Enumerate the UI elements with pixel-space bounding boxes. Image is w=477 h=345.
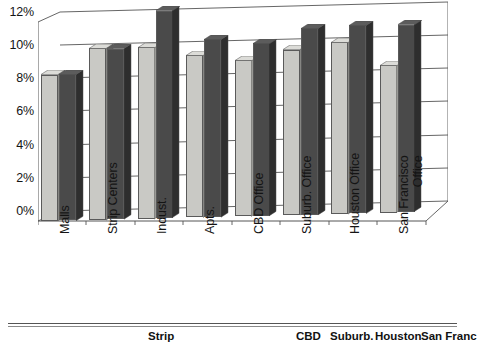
bar-front (283, 50, 300, 215)
bar-front (331, 42, 348, 214)
bar-front (59, 74, 76, 220)
bar-side-face (318, 24, 327, 222)
bar-front (156, 11, 173, 218)
bar-top-face (204, 35, 230, 47)
x-axis-label-5: Suburb. Office (300, 156, 314, 234)
y-tick-label-0: 0% (16, 204, 34, 218)
bar-side-face (221, 35, 230, 225)
bar-front (138, 47, 155, 219)
bar-top-face (156, 6, 182, 18)
bar-front (186, 55, 203, 217)
x-axis-label-line: Strip Centers (106, 162, 120, 234)
bar-series2-0 (59, 74, 76, 220)
y-tick-label-12: 12% (10, 5, 34, 19)
plot-area (38, 0, 448, 225)
footer-col-houston: Houston (375, 330, 422, 342)
bar-series1-7 (380, 65, 397, 212)
y-tick-label-4: 4% (16, 138, 34, 152)
footer-divider-top (8, 323, 457, 324)
footer-col-suburb: Suburb. (330, 330, 373, 342)
bar-top-face (59, 70, 85, 82)
bar-side-face (172, 6, 181, 225)
y-tick-label-10: 10% (10, 38, 34, 52)
bar-series1-6 (331, 42, 348, 214)
x-axis-label-line: Indust. (155, 197, 169, 234)
bar-top-face (253, 39, 279, 51)
bar-series1-4 (235, 60, 252, 216)
bar-series1-3 (186, 55, 203, 217)
footer-divider-bottom (8, 326, 457, 327)
bar-side-face (269, 39, 278, 223)
bar-series1-5 (283, 50, 300, 215)
footer-table-header: Strip CBD Suburb. Houston San Franc (0, 323, 463, 345)
y-tick-label-6: 6% (16, 104, 34, 118)
x-axis-label-line: Apts. (203, 206, 217, 234)
bar-top-face (398, 20, 424, 32)
x-axis-label-line: San Francisco (397, 155, 411, 234)
footer-col-strip: Strip (148, 330, 174, 342)
y-tick-label-2: 2% (16, 171, 34, 185)
x-axis-label-3: Apts. (203, 206, 217, 234)
bar-side-face (366, 21, 375, 221)
x-axis-label-line: Houston Office (348, 153, 362, 234)
bar-series1-0 (41, 75, 58, 221)
bar-series2-3 (204, 39, 221, 217)
x-axis-label-line: Office (411, 155, 425, 234)
bar-front (235, 60, 252, 216)
footer-col-sanfranc: San Franc (421, 330, 477, 342)
y-tick-label-8: 8% (16, 71, 34, 85)
x-axis-label-line: Suburb. Office (300, 156, 314, 234)
x-axis-category-labels: MallsStrip CentersIndust.Apts.CBD Office… (38, 232, 450, 310)
bar-front (41, 75, 58, 221)
bar-top-face (107, 44, 133, 56)
bar-side-face (76, 70, 85, 228)
bar-front (89, 48, 106, 220)
bar-top-face (349, 21, 375, 33)
bar-front (204, 39, 221, 217)
bar-series1-1 (89, 48, 106, 220)
x-axis-label-2: Indust. (155, 197, 169, 234)
bar-top-face (301, 24, 327, 36)
bar-series2-2 (156, 11, 173, 218)
bars-layer (38, 0, 448, 225)
bar-series1-2 (138, 47, 155, 219)
x-axis-label-line: CBD Office (252, 173, 266, 234)
bar-front (380, 65, 397, 212)
x-axis-label-1: Strip Centers (106, 162, 120, 234)
x-axis-label-4: CBD Office (252, 173, 266, 234)
footer-col-cbd: CBD (296, 330, 321, 342)
x-axis-label-6: Houston Office (348, 153, 362, 234)
bar-side-face (124, 44, 133, 227)
x-axis-label-0: Malls (58, 205, 72, 234)
y-axis: 12% 10% 8% 6% 4% 2% 0% (0, 0, 36, 225)
x-axis-label-7: San FranciscoOffice (397, 155, 425, 234)
x-axis-label-line: Malls (58, 205, 72, 234)
